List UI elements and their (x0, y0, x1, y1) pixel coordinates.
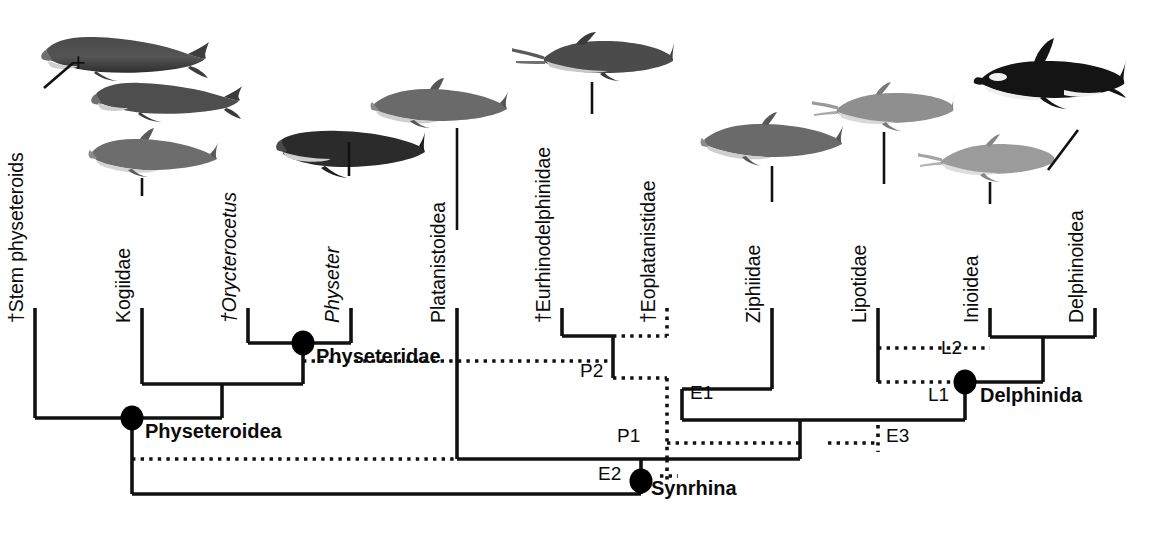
node-code-E1: E1 (690, 382, 713, 404)
node-physeteroidea-marker (121, 406, 144, 431)
node-code-L2: L2 (941, 337, 962, 359)
tip-label-stem-physeteroids: †Stem physeteroids (5, 152, 28, 323)
node-delphinida-marker (954, 370, 977, 395)
tip-label-kogiidae: Kogiidae (112, 248, 135, 323)
tip-label-lipotidae: Lipotidae (848, 245, 871, 323)
clade-label-physeteroidea: Physeteroidea (145, 420, 282, 443)
tip-label-eurhinodelphinidae: †Eurhinodelphinidae (532, 147, 555, 323)
node-code-L1: L1 (928, 384, 949, 406)
tip-label-delphinoidea: Delphinoidea (1065, 210, 1088, 323)
tip-label-physeter: Physeter (321, 247, 344, 323)
leader-stem-physeteroids-icon (44, 63, 73, 88)
clade-label-synrhina: Synrhina (651, 477, 737, 500)
clade-label-delphinida: Delphinida (980, 384, 1082, 407)
node-synrhina-marker (630, 469, 653, 494)
clade-label-physeteridae: Physeteridae (316, 345, 441, 368)
plus-symbol: + (71, 48, 86, 77)
tip-label-platanistoidea: Platanistoidea (427, 202, 450, 323)
node-code-E3: E3 (886, 425, 909, 447)
phylogenetic-tree-figure: †Stem physeteroids Kogiidae †Orycterocet… (0, 0, 1150, 538)
tip-label-orycterocetus: †Orycterocetus (218, 192, 241, 323)
node-code-P2: P2 (580, 360, 603, 382)
tip-label-inioidea: Inioidea (960, 255, 983, 323)
tip-label-eoplatanistidae: †Eoplatanistidae (637, 180, 660, 323)
tip-label-ziphiidae: Ziphiidae (742, 245, 765, 323)
node-code-E2: E2 (598, 463, 621, 485)
leader-delphinoidea-icon (1048, 130, 1078, 170)
node-code-P1: P1 (617, 425, 640, 447)
node-physeteridae-marker (292, 331, 315, 356)
clade-node-markers (121, 331, 977, 494)
leader-lines (44, 63, 1078, 230)
